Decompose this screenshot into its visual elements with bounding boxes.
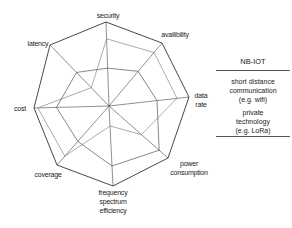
axis-label-power-line1: power <box>163 159 215 168</box>
axis-label-security: security <box>88 11 128 20</box>
axis-label-latency: latency <box>22 39 54 48</box>
radar-spoke <box>50 45 109 106</box>
legend-item-private-line3: (e.g. LoRa) <box>216 126 290 135</box>
legend-item-private-technology: private technology (e.g. LoRa) <box>216 106 290 137</box>
radar-spoke <box>109 106 113 186</box>
legend-item-private-line2: technology <box>216 117 290 126</box>
axis-label-availability: availibility <box>152 30 198 39</box>
legend-item-nb-iot: NB-IOT <box>216 57 290 71</box>
legend-item-short-distance-line3: (e.g. wifi) <box>216 95 290 104</box>
axis-label-data-rate-line2: rate <box>188 100 214 109</box>
axis-label-coverage: coverage <box>28 170 68 179</box>
legend-item-short-distance-line1: short distance <box>216 77 290 86</box>
axis-label-frequency-spectrum-efficiency: frequency spectrum efficiency <box>91 188 135 215</box>
legend-item-short-distance: short distance communication (e.g. wifi) <box>216 75 290 106</box>
axis-label-data-rate: data rate <box>188 91 214 109</box>
radar-spoke <box>106 22 109 106</box>
axis-label-power-line2: consumption <box>163 168 215 177</box>
chart-legend: NB-IOT short distance communication (e.g… <box>216 57 290 137</box>
axis-label-freq-line1: frequency <box>91 188 135 197</box>
axis-label-freq-line2: spectrum <box>91 197 135 206</box>
axis-label-power-consumption: power consumption <box>163 159 215 177</box>
radar-spoke <box>34 106 109 108</box>
axis-label-data-rate-line1: data <box>188 91 214 100</box>
axis-label-cost: cost <box>8 104 32 113</box>
axis-label-freq-line3: efficiency <box>91 206 135 215</box>
legend-item-private-line1: private <box>216 108 290 117</box>
legend-item-short-distance-line2: communication <box>216 86 290 95</box>
